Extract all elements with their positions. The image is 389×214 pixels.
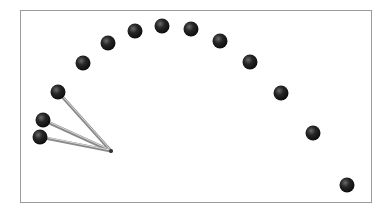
trajectory-ball: [76, 56, 91, 71]
trajectory-ball: [101, 36, 116, 51]
trajectory-diagram: [0, 0, 389, 214]
launcher-stick: [43, 120, 111, 151]
trajectory-ball: [184, 22, 199, 37]
trajectory-ball: [340, 178, 355, 193]
trajectory-ball: [213, 34, 228, 49]
trajectory-ball: [51, 85, 66, 100]
trajectory-ball: [243, 55, 258, 70]
trajectory-ball: [128, 24, 143, 39]
stick-ball: [33, 130, 48, 145]
trajectory-ball: [274, 86, 289, 101]
stick-ball: [36, 113, 51, 128]
trajectory-ball: [155, 19, 170, 34]
pivot-point: [109, 149, 113, 153]
trajectory-ball: [306, 126, 321, 141]
